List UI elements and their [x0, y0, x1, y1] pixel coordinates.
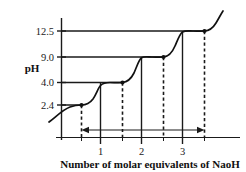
data-point-0-5-2-4	[79, 103, 83, 107]
y-tick-label-9-0: 9.0	[41, 52, 54, 63]
data-point-1-5-4-0	[120, 80, 124, 84]
x-tick-label-2: 2	[139, 146, 144, 157]
chart-figure: 12.5 9.0 4.0 2.4 1 2 3 pH Number of mola…	[0, 0, 246, 172]
x-tick-label-3: 3	[180, 146, 185, 157]
data-point-2-5-9-0	[161, 55, 165, 59]
y-tick-label-4-0: 4.0	[41, 77, 54, 88]
y-tick-label-12-5: 12.5	[36, 26, 54, 37]
x-axis-title: Number of molar equivalents of NaoH	[60, 158, 240, 170]
data-point-3-5-12-5	[202, 29, 206, 33]
x-tick-label-1: 1	[98, 146, 103, 157]
y-axis-title: pH	[25, 62, 40, 74]
titration-curve-chart: 12.5 9.0 4.0 2.4 1 2 3 pH Number of mola…	[0, 0, 246, 172]
y-tick-label-2-4: 2.4	[41, 100, 55, 111]
